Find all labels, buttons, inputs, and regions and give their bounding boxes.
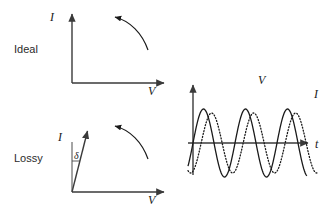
lossy-loss-angle-label: δ (74, 150, 79, 161)
lossy-tilted-current-axis (72, 131, 88, 192)
waveform-time-label: t (315, 137, 319, 151)
lossy-y-axis-label: I (57, 130, 63, 144)
lossy-panel: I V δ (57, 126, 164, 207)
ideal-hysteresis-arc (115, 17, 148, 50)
ideal-panel: I V (49, 10, 164, 98)
figure-canvas: Ideal Lossy I V I V δ (0, 0, 331, 220)
lossy-x-axis-label: V (148, 193, 157, 207)
lossy-hysteresis-arc (115, 126, 148, 159)
waveform-panel: V I t (188, 73, 319, 177)
figure-vector-layer: I V I V δ V I t (0, 0, 331, 220)
ideal-y-axis-label: I (49, 10, 55, 24)
waveform-current-label: I (313, 87, 319, 101)
ideal-x-axis-label: V (148, 84, 157, 98)
waveform-voltage-label: V (258, 73, 267, 87)
